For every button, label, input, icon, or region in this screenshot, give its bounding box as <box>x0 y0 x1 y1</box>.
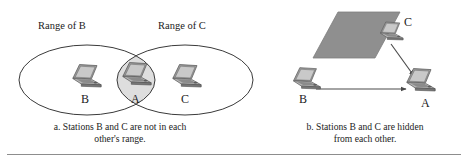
panel-b-station-c-label: C <box>404 16 412 29</box>
station-b-laptop-icon <box>73 65 102 88</box>
caption-a: a. Stations B and C are not in each othe… <box>40 121 200 144</box>
caption-b: b. Stations B and C are hidden from each… <box>285 121 445 144</box>
station-a-label: A <box>131 93 140 106</box>
figure-container: Range of B Range of C B A C B C A a. Sta… <box>0 0 468 161</box>
arrow-c-to-a <box>391 44 414 76</box>
panel-b <box>293 12 435 91</box>
caption-b-line-1: b. Stations B and C are hidden <box>285 121 445 133</box>
panel-b-station-a-label: A <box>421 97 430 110</box>
panel-b-station-b-label: B <box>299 93 307 106</box>
station-c-label: C <box>181 93 189 106</box>
range-of-b-label: Range of B <box>38 20 86 32</box>
station-c-laptop-icon <box>173 65 202 88</box>
range-of-c-label: Range of C <box>158 20 206 32</box>
bottom-divider <box>7 154 461 155</box>
caption-a-line-1: a. Stations B and C are not in each <box>40 121 200 133</box>
station-b-label: B <box>81 93 89 106</box>
caption-a-line-2: other's range. <box>40 133 200 145</box>
caption-b-line-2: from each other. <box>285 133 445 145</box>
station-b-laptop-icon <box>293 68 320 89</box>
